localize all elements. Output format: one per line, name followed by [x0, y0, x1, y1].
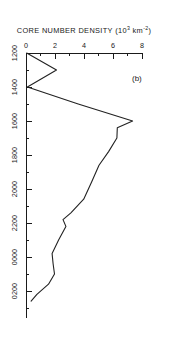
- panel-label-b: (b): [132, 74, 142, 83]
- svg-text:CORE NUMBER DENSITY (103 km-2): CORE NUMBER DENSITY (103 km-2): [17, 25, 152, 35]
- core-number-density-chart: 0 2 4 6 8 1200 1400 1600 1800 2000 2200 …: [0, 0, 172, 343]
- rotated-figure-container: 0 2 4 6 8 1200 1400 1600 1800 2000 2200 …: [0, 0, 172, 343]
- axis-title-units-close: ): [148, 26, 151, 35]
- axis-title-units-open: (10: [115, 26, 127, 35]
- time-tick-label-1400: 1400: [10, 79, 19, 95]
- time-tick-label-1800: 1800: [10, 147, 19, 163]
- time-tick-label-1600: 1600: [10, 113, 19, 129]
- time-tick-label-2200: 2200: [10, 215, 19, 231]
- density-tick-label-4: 4: [82, 41, 86, 50]
- axis-title-main: CORE NUMBER DENSITY: [17, 26, 113, 35]
- figure-page: 0 2 4 6 8 1200 1400 1600 1800 2000 2200 …: [0, 0, 172, 343]
- time-tick-label-0000: 0000: [10, 249, 19, 265]
- axis-title-units-km: km: [130, 26, 143, 35]
- density-tick-label-2: 2: [53, 41, 57, 50]
- density-tick-label-8: 8: [140, 41, 144, 50]
- time-tick-label-1200: 1200: [10, 45, 19, 61]
- time-tick-label-2000: 2000: [10, 181, 19, 197]
- time-tick-label-0200: 0200: [10, 283, 19, 299]
- density-tick-label-0: 0: [24, 41, 28, 50]
- axis-title-group: CORE NUMBER DENSITY (103 km-2): [17, 25, 152, 35]
- density-tick-label-6: 6: [111, 41, 115, 50]
